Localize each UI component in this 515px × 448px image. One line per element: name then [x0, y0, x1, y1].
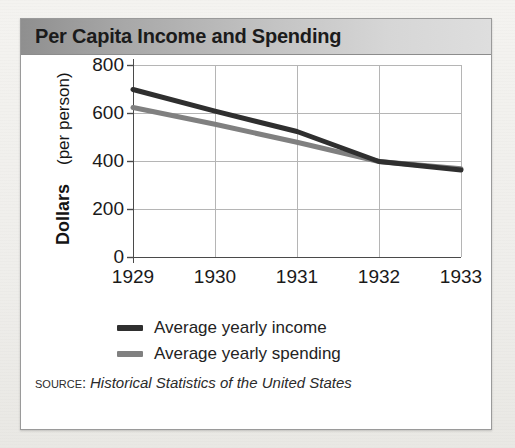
legend-item-income: Average yearly income: [117, 315, 491, 341]
y-tick-label: 0: [113, 246, 124, 267]
y-axis-title-bold: Dollars: [53, 184, 73, 245]
source-title: Historical Statistics of the United Stat…: [90, 374, 352, 391]
source-label: Source:: [35, 374, 86, 391]
legend-swatch-spending-icon: [117, 351, 143, 357]
y-axis-title-regular: (per person): [54, 72, 73, 165]
y-tick-label: 600: [92, 102, 124, 123]
x-tick-label: 1930: [194, 266, 236, 287]
page-title: Per Capita Income and Spending: [35, 25, 341, 48]
x-tick-label: 1931: [276, 266, 318, 287]
y-tick-label: 400: [92, 150, 124, 171]
source-note: Source: Historical Statistics of the Uni…: [35, 374, 352, 391]
y-tick-label: 800: [92, 55, 124, 75]
chart-gridlines: [133, 65, 462, 257]
x-axis-tick-labels: 1929 1930 1931 1932 1933: [112, 266, 482, 287]
chart-card: Per Capita Income and Spending 800 600 4…: [20, 18, 492, 430]
y-axis-ticks: [127, 66, 133, 258]
y-axis-tick-labels: 800 600 400 200 0: [92, 55, 124, 267]
x-tick-label: 1929: [112, 266, 154, 287]
y-tick-label: 200: [92, 198, 124, 219]
chart-legend: Average yearly income Average yearly spe…: [21, 315, 491, 367]
line-chart: 800 600 400 200 0 Dollars (per person): [21, 55, 491, 347]
x-tick-label: 1932: [358, 266, 400, 287]
legend-item-spending: Average yearly spending: [117, 341, 491, 367]
legend-swatch-income-icon: [117, 325, 143, 331]
legend-label-income: Average yearly income: [154, 318, 327, 338]
legend-label-spending: Average yearly spending: [154, 344, 341, 364]
card-header: Per Capita Income and Spending: [21, 19, 491, 55]
y-axis-title: Dollars (per person): [53, 72, 73, 245]
chart-area: 800 600 400 200 0 Dollars (per person): [21, 55, 491, 347]
x-tick-label: 1933: [440, 266, 482, 287]
